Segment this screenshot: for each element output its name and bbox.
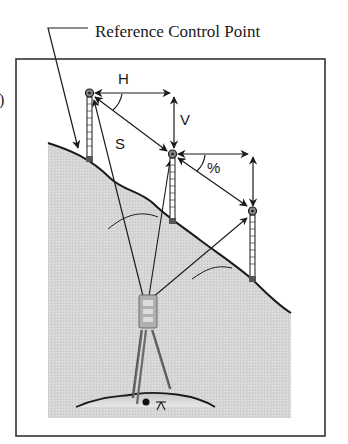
reference-control-point-callout: Reference Control Point (48, 22, 261, 148)
leader-line (48, 28, 88, 148)
surveying-diagram: Reference Control Point c) (0, 0, 348, 444)
ground-point-marker (143, 399, 150, 406)
panel-marker: c) (0, 91, 4, 109)
angle-arc (197, 155, 205, 171)
slope-distance-arrow (95, 97, 167, 151)
reference-control-point-label: Reference Control Point (95, 22, 261, 41)
middle-rod (169, 150, 177, 224)
label-slope: S (115, 135, 125, 152)
label-grade-percent: % (207, 159, 220, 176)
label-vertical: V (180, 111, 190, 128)
measurement-arrows-upper (95, 93, 174, 151)
reference-rod (86, 89, 94, 162)
angle-arc (113, 94, 122, 110)
label-horizontal: H (118, 70, 129, 87)
lower-rod (249, 207, 257, 282)
